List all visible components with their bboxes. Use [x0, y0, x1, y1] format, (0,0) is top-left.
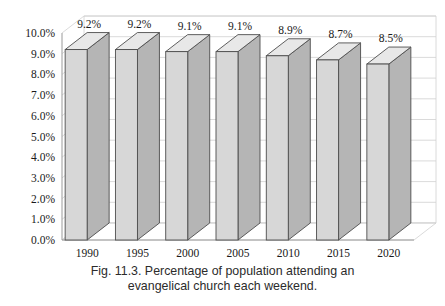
bar-group[interactable]	[367, 47, 411, 240]
bar-side-face	[389, 47, 411, 240]
figure-container: 0.0%1.0%2.0%3.0%4.0%5.0%6.0%7.0%8.0%9.0%…	[0, 0, 445, 306]
caption-line-1: Fig. 11.3. Percentage of population atte…	[0, 264, 445, 279]
bar-group[interactable]	[216, 35, 260, 240]
x-axis-tick-label: 2015	[327, 247, 350, 259]
y-axis-tick-label: 6.0%	[31, 110, 55, 122]
x-axis-tick-label: 1995	[126, 247, 149, 259]
x-axis-tick-label: 2000	[176, 247, 199, 259]
figure-caption: Fig. 11.3. Percentage of population atte…	[0, 264, 445, 294]
bar-side-face	[188, 35, 210, 240]
bar-side-face	[137, 33, 159, 240]
y-axis-tick-label: 7.0%	[31, 89, 55, 101]
bar-front-face	[166, 52, 188, 240]
y-axis-tick-label: 1.0%	[31, 213, 55, 225]
y-axis-tick-label: 8.0%	[31, 68, 55, 80]
bar-value-label: 9.2%	[77, 18, 101, 30]
bar-front-face	[266, 56, 288, 240]
bar-value-label: 8.9%	[278, 24, 302, 36]
bar-value-label: 9.1%	[178, 20, 202, 32]
bar-value-label: 8.5%	[379, 32, 403, 44]
x-axis-tick-label: 2010	[277, 247, 300, 259]
bar-front-face	[216, 52, 238, 240]
bar-side-face	[238, 35, 260, 240]
caption-line-2: evangelical church each weekend.	[0, 279, 445, 294]
bar-front-face	[115, 50, 137, 240]
y-axis-tick-label: 3.0%	[31, 172, 55, 184]
bar-group[interactable]	[115, 33, 159, 240]
bar-chart: 0.0%1.0%2.0%3.0%4.0%5.0%6.0%7.0%8.0%9.0%…	[0, 0, 445, 306]
y-axis-tick-label: 2.0%	[31, 193, 55, 205]
bar-value-label: 9.1%	[228, 20, 252, 32]
bar-group[interactable]	[65, 33, 109, 240]
x-axis-tick-label: 2020	[377, 247, 400, 259]
bar-front-face	[65, 50, 87, 240]
x-axis-tick-label: 2005	[227, 247, 250, 259]
y-axis-tick-label: 5.0%	[31, 131, 55, 143]
bar-group[interactable]	[166, 35, 210, 240]
y-axis-tick-label: 4.0%	[31, 151, 55, 163]
bar-value-label: 8.7%	[329, 28, 353, 40]
bar-side-face	[87, 33, 109, 240]
bar-front-face	[317, 60, 339, 240]
bar-group[interactable]	[266, 39, 310, 240]
y-axis-tick-label: 10.0%	[25, 27, 55, 39]
bar-front-face	[367, 64, 389, 240]
y-axis-tick-label: 9.0%	[31, 48, 55, 60]
bar-group[interactable]	[317, 43, 361, 240]
bar-side-face	[339, 43, 361, 240]
y-axis-tick-label: 0.0%	[31, 234, 55, 246]
bar-value-label: 9.2%	[127, 18, 151, 30]
bar-side-face	[288, 39, 310, 240]
x-axis-tick-label: 1990	[76, 247, 99, 259]
